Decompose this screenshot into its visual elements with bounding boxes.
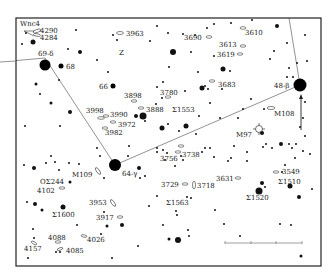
- star-icon: [233, 145, 235, 147]
- star-icon: [309, 153, 311, 155]
- star-icon: [260, 131, 264, 135]
- star-icon: [166, 152, 168, 154]
- galaxy-icon: [235, 177, 241, 179]
- object-label: Z: [119, 49, 124, 57]
- star-icon: [184, 124, 189, 129]
- star-icon: [67, 48, 69, 50]
- star-icon: [246, 151, 248, 153]
- star-icon: [279, 223, 281, 225]
- star-icon: [144, 120, 146, 122]
- star-icon: [271, 147, 273, 149]
- star-icon: [144, 175, 146, 177]
- star-icon: [209, 147, 211, 149]
- star-icon: [162, 149, 164, 151]
- star-icon: [68, 162, 70, 164]
- object-label: 3619: [217, 51, 235, 59]
- galaxy-icon: [94, 167, 101, 175]
- star-icon: [174, 165, 176, 167]
- star-icon: [76, 224, 78, 226]
- object-label: 3738: [182, 151, 200, 159]
- star-icon: [33, 237, 35, 239]
- star-icon: [223, 223, 225, 225]
- object-label: 4085: [66, 247, 84, 255]
- star-icon: [27, 257, 29, 259]
- object-label: 3982: [105, 129, 123, 137]
- star-icon: [96, 147, 98, 149]
- star-icon: [302, 117, 304, 119]
- object-label: Σ1563: [166, 199, 189, 207]
- object-label: Σ1600: [52, 211, 75, 219]
- galaxy-icon: [59, 187, 65, 189]
- star-icon: [139, 177, 141, 179]
- star-label: 66: [99, 83, 108, 91]
- star-icon: [111, 257, 113, 259]
- star-icon: [161, 97, 163, 99]
- star-icon: [137, 166, 141, 170]
- field-stars: [21, 19, 313, 259]
- galaxy-icon: [273, 171, 279, 173]
- object-label: 3631: [216, 175, 234, 183]
- star-icon: [304, 101, 306, 103]
- star-icon: [213, 23, 215, 25]
- star-icon: [78, 50, 82, 54]
- star-icon: [58, 169, 60, 171]
- object-label: 3613: [219, 41, 237, 49]
- star-icon: [204, 147, 206, 149]
- star-icon: [264, 186, 266, 188]
- star-icon: [112, 34, 114, 36]
- star-icon: [187, 229, 189, 231]
- star-icon: [168, 66, 170, 68]
- star-icon: [200, 86, 205, 91]
- star-icon: [227, 160, 229, 162]
- star-icon: [41, 209, 44, 212]
- star-icon: [260, 181, 264, 185]
- star-icon: [170, 49, 176, 55]
- star-icon: [58, 79, 60, 81]
- star-icon: [128, 145, 130, 147]
- star-icon: [162, 81, 164, 83]
- star-icon: [175, 210, 177, 212]
- star-icon: [304, 135, 306, 137]
- star-icon: [148, 205, 150, 207]
- star-icon: [197, 71, 199, 73]
- star-icon: [286, 76, 288, 78]
- star-icon: [297, 195, 301, 199]
- constellation-line: [289, 18, 300, 85]
- star-icon: [250, 98, 252, 100]
- star-icon: [59, 251, 61, 253]
- star-chart: 69-δ686664-γ48-β Wnc4429042843963Z389839…: [0, 0, 334, 279]
- star-icon: [31, 40, 36, 45]
- star-label: 69-δ: [38, 50, 54, 58]
- galaxy-icon: [240, 45, 246, 47]
- object-label: 4088: [48, 234, 66, 242]
- star-icon: [300, 255, 303, 258]
- named-star-icon: [109, 159, 121, 171]
- object-label: Σ1553: [172, 106, 195, 114]
- object-label: 3972: [118, 121, 136, 129]
- galaxy-icon: [117, 32, 124, 35]
- star-icon: [204, 85, 206, 87]
- star-icon: [100, 233, 102, 235]
- named-star-icon: [111, 84, 116, 89]
- galaxy-icon: [209, 80, 215, 82]
- star-icon: [230, 22, 232, 24]
- star-icon: [120, 223, 124, 227]
- star-icon: [201, 151, 203, 153]
- star-icon: [262, 146, 264, 148]
- star-icon: [292, 76, 294, 78]
- star-icon: [149, 40, 151, 42]
- galaxy-icon: [103, 115, 109, 117]
- star-icon: [291, 147, 293, 149]
- star-icon: [209, 102, 211, 104]
- star-icon: [33, 202, 37, 206]
- star-icon: [178, 130, 180, 132]
- star-icon: [295, 143, 297, 145]
- star-icon: [190, 51, 192, 53]
- named-star-icon: [59, 64, 64, 69]
- star-icon: [107, 71, 109, 73]
- star-icon: [198, 115, 200, 117]
- star-icon: [263, 108, 265, 110]
- object-label: 3998: [86, 107, 104, 115]
- star-icon: [251, 19, 253, 21]
- star-icon: [54, 161, 56, 163]
